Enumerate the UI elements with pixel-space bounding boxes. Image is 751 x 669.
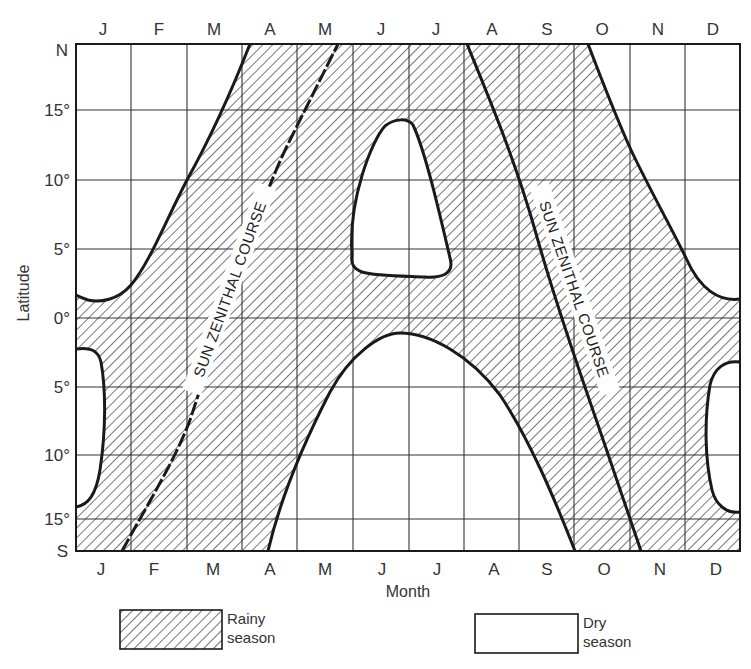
legend-dry-swatch	[475, 614, 578, 653]
legend-dry-label: Dry season	[583, 613, 631, 651]
bottom-month-labels: J F M A M J J A S O N D	[97, 560, 722, 579]
svg-text:S: S	[541, 20, 552, 39]
rainfall-latitude-diagram: SUN ZENITHAL COURSE SUN ZENITHAL COURSE …	[0, 0, 751, 669]
svg-text:0°: 0°	[54, 309, 70, 328]
legend-rainy-line2: season	[227, 628, 275, 647]
svg-text:15°: 15°	[44, 101, 70, 120]
svg-text:F: F	[149, 560, 159, 579]
svg-text:J: J	[433, 560, 442, 579]
svg-text:N: N	[654, 560, 666, 579]
boundary-lower-right	[706, 362, 740, 513]
svg-text:S: S	[57, 542, 68, 561]
svg-text:M: M	[207, 20, 221, 39]
latitude-labels: N 15° 10° 5° 0° 5° 10° 15° S	[44, 41, 70, 561]
svg-text:A: A	[264, 20, 276, 39]
svg-text:5°: 5°	[54, 240, 70, 259]
svg-text:J: J	[432, 20, 441, 39]
svg-text:5°: 5°	[54, 378, 70, 397]
top-month-labels: J F M A M J J A S O N D	[99, 20, 719, 39]
svg-text:J: J	[378, 560, 387, 579]
legend-rainy-label: Rainy season	[227, 609, 275, 647]
svg-text:A: A	[488, 560, 500, 579]
svg-text:10°: 10°	[44, 446, 70, 465]
svg-text:S: S	[541, 560, 552, 579]
legend-rainy-line1: Rainy	[227, 609, 275, 628]
legend-rainy-swatch	[120, 610, 222, 649]
svg-text:N: N	[652, 20, 664, 39]
svg-text:15°: 15°	[44, 510, 70, 529]
svg-text:M: M	[318, 560, 332, 579]
svg-text:10°: 10°	[44, 171, 70, 190]
svg-text:M: M	[318, 20, 332, 39]
y-axis-title: Latitude	[15, 264, 32, 321]
svg-text:D: D	[707, 20, 719, 39]
x-axis-title: Month	[386, 583, 430, 600]
svg-text:J: J	[97, 560, 106, 579]
svg-text:N: N	[56, 41, 68, 60]
svg-text:M: M	[206, 560, 220, 579]
svg-text:J: J	[99, 20, 108, 39]
legend-dry-line2: season	[583, 632, 631, 651]
svg-text:D: D	[710, 560, 722, 579]
svg-text:A: A	[264, 560, 276, 579]
svg-text:O: O	[597, 560, 610, 579]
svg-text:O: O	[595, 20, 608, 39]
svg-text:A: A	[486, 20, 498, 39]
svg-text:J: J	[377, 20, 386, 39]
svg-text:F: F	[154, 20, 164, 39]
legend-dry-line1: Dry	[583, 613, 631, 632]
